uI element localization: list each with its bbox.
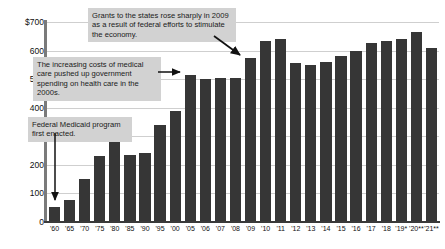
bar-09 (245, 58, 256, 222)
bar-15 (335, 56, 346, 222)
bar-18 (381, 41, 392, 222)
bar-chart: $7006005004003002001000 '60'65'70'75'80'… (0, 0, 445, 249)
bar-13 (305, 65, 316, 222)
bar-70 (79, 179, 90, 222)
bar-00 (170, 111, 181, 222)
annotation-2009-stimulus: Grants to the states rose sharply in 200… (88, 8, 236, 42)
y-axis-tick-600: 600 (2, 46, 44, 55)
bar-21 (426, 48, 437, 222)
x-axis-tick-label: '21** (419, 224, 445, 234)
bar-85 (124, 155, 135, 222)
x-axis-line (44, 221, 440, 223)
bar-20 (411, 32, 422, 222)
y-axis-tick-100: 100 (2, 189, 44, 198)
bar-95 (154, 125, 165, 222)
bar-06 (200, 79, 211, 222)
bar-16 (350, 51, 361, 222)
bar-14 (320, 62, 331, 222)
bar-60 (49, 207, 60, 222)
y-axis-tick-0: 0 (2, 218, 44, 227)
bar-07 (215, 78, 226, 222)
bar-19 (396, 39, 407, 222)
y-axis-tick-700: $700 (2, 18, 44, 27)
bar-10 (260, 41, 271, 222)
bar-11 (275, 39, 286, 222)
x-axis-tick-labels: '60'65'70'75'80'85'90'95'00'05'06'07'08'… (47, 224, 439, 238)
bar-75 (94, 156, 105, 222)
bar-90 (139, 153, 150, 222)
annotation-federal-medicaid: Federal Medicaid program first enacted. (28, 117, 132, 142)
bar-17 (366, 43, 377, 222)
annotation-medical-costs: The increasing costs of medical care pus… (33, 57, 161, 101)
y-axis-tick-200: 200 (2, 160, 44, 169)
bar-05 (185, 75, 196, 222)
bar-65 (64, 200, 75, 222)
y-axis-tick-400: 400 (2, 103, 44, 112)
bar-12 (290, 63, 301, 222)
bar-80 (109, 141, 120, 222)
bar-08 (230, 78, 241, 222)
